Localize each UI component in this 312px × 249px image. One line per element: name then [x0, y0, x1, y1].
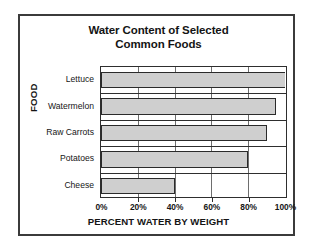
y-tick-label-potatoes: Potatoes: [20, 153, 94, 163]
bar-row: [101, 98, 286, 114]
y-tick-label-raw-carrots: Raw Carrots: [20, 127, 94, 137]
x-tick-label-100: 100%: [269, 202, 303, 212]
y-tick-label-watermelon: Watermelon: [20, 101, 94, 111]
bar-lettuce: [101, 72, 285, 88]
x-tick-label-0: 0%: [85, 202, 119, 212]
chart-title-line-1: Water Content of Selected: [20, 24, 297, 38]
bar-cheese: [101, 178, 175, 194]
x-axis-title: PERCENT WATER BY WEIGHT: [20, 216, 297, 227]
y-tick-label-cheese: Cheese: [20, 180, 94, 190]
x-tick-label-20: 20%: [121, 202, 155, 212]
x-tick-80: [249, 198, 250, 202]
x-tick-40: [175, 198, 176, 202]
bar-raw-carrots: [101, 125, 267, 141]
category-separator: [101, 93, 286, 94]
x-tick-20: [138, 198, 139, 202]
x-tick-label-60: 60%: [195, 202, 229, 212]
bar-row: [101, 72, 286, 88]
chart-title: Water Content of Selected Common Foods: [20, 24, 297, 51]
x-tick-label-80: 80%: [232, 202, 266, 212]
chart-figure: Water Content of Selected Common Foods F…: [18, 14, 295, 236]
x-tick-60: [212, 198, 213, 202]
chart-title-line-2: Common Foods: [20, 38, 297, 52]
y-tick-label-lettuce: Lettuce: [20, 74, 94, 84]
bar-watermelon: [101, 98, 276, 114]
category-separator: [101, 146, 286, 147]
plot-area: [100, 66, 287, 198]
category-separator: [101, 173, 286, 174]
bar-potatoes: [101, 151, 248, 167]
bar-row: [101, 125, 286, 141]
x-tick-label-40: 40%: [158, 202, 192, 212]
category-separator: [101, 120, 286, 121]
bar-row: [101, 178, 286, 194]
bar-row: [101, 151, 286, 167]
